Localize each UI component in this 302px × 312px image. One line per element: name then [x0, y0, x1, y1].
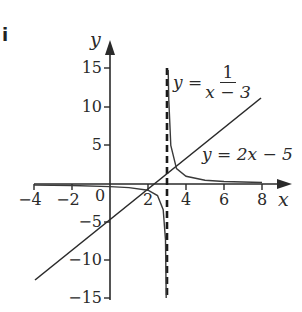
y-tick-10: 10 [82, 99, 102, 115]
y-axis-arrow-icon [105, 40, 115, 55]
y-tick-5: 5 [92, 137, 102, 153]
y-tick-minus10: −10 [68, 252, 102, 268]
equation-hyperbola-numerator: 1 [220, 64, 237, 83]
x-tick-minus2: −2 [56, 192, 80, 208]
equation-hyperbola-denominator: x − 3 [205, 83, 250, 101]
equation-hyperbola-fraction: 1 x − 3 [205, 64, 250, 101]
y-tick-15: 15 [82, 60, 102, 76]
x-axis-label: x [278, 190, 289, 209]
y-axis-label: y [90, 30, 101, 49]
y-ticks [104, 68, 110, 298]
equation-line: y = 2x − 5 [202, 146, 293, 163]
x-tick-8: 8 [257, 192, 267, 208]
y-tick-minus5: −5 [78, 214, 102, 230]
x-tick-6: 6 [219, 192, 229, 208]
x-tick-2: 2 [143, 192, 153, 208]
x-tick-4: 4 [181, 192, 191, 208]
x-tick-minus4: −4 [18, 192, 42, 208]
equation-line-text: y = 2x − 5 [202, 144, 293, 164]
y-tick-minus15: −15 [68, 290, 102, 306]
equation-hyperbola: y = 1 x − 3 [173, 64, 251, 101]
x-tick-0: 0 [95, 188, 105, 204]
part-label: i [2, 26, 8, 44]
equation-hyperbola-lhs: y = [173, 74, 202, 91]
